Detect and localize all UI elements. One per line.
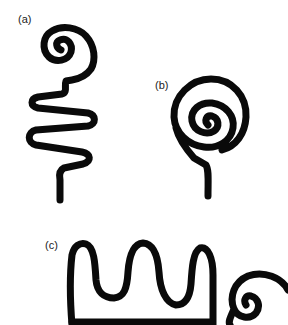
panel-c-meander-shape	[71, 243, 214, 325]
panel-c-spiral-shape	[229, 274, 288, 325]
panel-a-spiral-shape	[29, 28, 94, 200]
panel-b-spiral-shape	[174, 79, 246, 196]
figure-drawing	[0, 0, 288, 325]
